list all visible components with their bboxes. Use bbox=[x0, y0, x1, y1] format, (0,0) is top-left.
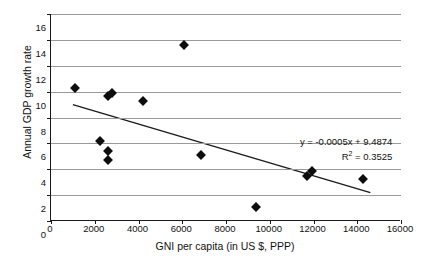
y-tick-4 bbox=[47, 169, 51, 170]
gridline-y-4 bbox=[51, 169, 401, 170]
x-tick-label-14000: 14000 bbox=[343, 224, 369, 234]
gridline-y-16 bbox=[51, 14, 401, 15]
x-tick-label-4000: 4000 bbox=[127, 224, 148, 234]
y-tick-6 bbox=[47, 143, 51, 144]
y-tick-label-16: 16 bbox=[24, 23, 46, 33]
gridline-y-12 bbox=[51, 66, 401, 67]
gridline-y-2 bbox=[51, 195, 401, 196]
r-squared-prefix: R bbox=[342, 151, 349, 162]
trendline-r-squared: R2 = 0.3525 bbox=[240, 148, 392, 163]
y-tick-label-12: 12 bbox=[24, 75, 46, 85]
trendline-equation: y = -0.0005x + 9.4874 bbox=[240, 136, 392, 148]
x-tick-label-10000: 10000 bbox=[256, 224, 282, 234]
x-axis-tick-labels: 0200040006000800010000120001400016000 bbox=[50, 224, 410, 238]
r-squared-value: = 0.3525 bbox=[352, 151, 392, 162]
y-tick-label-14: 14 bbox=[24, 49, 46, 59]
y-tick-label-0: 0 bbox=[24, 230, 46, 240]
y-tick-label-4: 4 bbox=[24, 178, 46, 188]
y-tick-label-6: 6 bbox=[24, 152, 46, 162]
x-tick-label-12000: 12000 bbox=[299, 224, 325, 234]
scatter-chart: Annual GDP growth rate 0246810121416 020… bbox=[0, 0, 428, 269]
y-tick-16 bbox=[47, 14, 51, 15]
y-axis-tick-labels: 0246810121416 bbox=[20, 14, 46, 221]
x-tick-label-16000: 16000 bbox=[387, 224, 413, 234]
y-tick-2 bbox=[47, 195, 51, 196]
gridline-y-8 bbox=[51, 118, 401, 119]
y-tick-label-10: 10 bbox=[24, 101, 46, 111]
x-tick-label-0: 0 bbox=[47, 224, 52, 234]
y-tick-12 bbox=[47, 66, 51, 67]
x-tick-label-2000: 2000 bbox=[83, 224, 104, 234]
y-tick-8 bbox=[47, 118, 51, 119]
y-tick-10 bbox=[47, 92, 51, 93]
x-tick-label-8000: 8000 bbox=[214, 224, 235, 234]
trendline-equation-annotation: y = -0.0005x + 9.4874 R2 = 0.3525 bbox=[240, 136, 392, 163]
gridline-y-10 bbox=[51, 92, 401, 93]
y-tick-label-8: 8 bbox=[24, 127, 46, 137]
plot-area bbox=[50, 14, 400, 221]
y-tick-label-2: 2 bbox=[24, 204, 46, 214]
gridline-y-14 bbox=[51, 40, 401, 41]
x-axis-title: GNI per capita (in US $, PPP) bbox=[50, 240, 400, 252]
y-tick-14 bbox=[47, 40, 51, 41]
x-tick-label-6000: 6000 bbox=[171, 224, 192, 234]
